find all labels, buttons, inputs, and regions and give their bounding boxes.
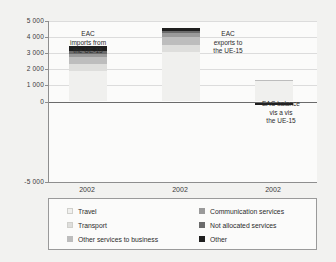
legend-item[interactable]: Not allocated services: [199, 218, 284, 232]
y-axis-tick-label: 4 000: [0, 33, 44, 40]
y-axis-tick-mark: [45, 37, 48, 38]
legend-swatch-icon: [67, 236, 73, 242]
legend-label: Transport: [78, 222, 107, 229]
annotation-line: exports to: [192, 39, 264, 48]
annotation-line: EAC balance: [244, 100, 318, 109]
legend-label: Not allocated services: [210, 222, 277, 229]
y-axis-tick-label: -5 000: [0, 178, 44, 185]
annotation-line: EAC: [52, 30, 124, 39]
annotation-line: the UE-15: [52, 47, 124, 56]
bar-stack[interactable]: [255, 80, 293, 102]
chart-root: 5 0004 0003 0002 0001 0000-5 000 2002200…: [0, 0, 336, 262]
x-axis-line: [48, 182, 317, 183]
bar-segment[interactable]: [162, 52, 200, 102]
bar-segment[interactable]: [69, 64, 107, 71]
annot-exports: EACexports tothe UE-15: [192, 30, 264, 56]
annotation-line: vis a vis: [244, 109, 318, 118]
y-axis-tick-mark: [45, 21, 48, 22]
y-axis-tick-mark: [45, 182, 48, 183]
legend-swatch-icon: [199, 236, 205, 242]
legend-label: Communication services: [210, 208, 284, 215]
legend-swatch-icon: [199, 222, 205, 228]
legend-item[interactable]: Other services to business: [67, 232, 158, 246]
legend-column-right: Communication servicesNot allocated serv…: [199, 204, 284, 246]
legend-column-left: TravelTransportOther services to busines…: [67, 204, 158, 246]
annot-imports: EACimports fromthe UE-15: [52, 30, 124, 56]
y-axis-tick-mark: [45, 53, 48, 54]
legend-item[interactable]: Communication services: [199, 204, 284, 218]
x-axis-label: 2002: [57, 186, 117, 193]
legend-swatch-icon: [67, 208, 73, 214]
legend-label: Travel: [78, 208, 97, 215]
y-axis-tick-label: 2 000: [0, 65, 44, 72]
annotation-line: the UE-15: [244, 117, 318, 126]
annotation-line: imports from: [52, 39, 124, 48]
y-axis-tick-label: 0: [0, 98, 44, 105]
legend-item[interactable]: Other: [199, 232, 284, 246]
annotation-line: the UE-15: [192, 47, 264, 56]
legend-label: Other services to business: [78, 236, 158, 243]
bar-segment[interactable]: [69, 71, 107, 101]
y-axis-tick-mark: [45, 102, 48, 103]
legend-box: TravelTransportOther services to busines…: [48, 198, 317, 250]
legend-item[interactable]: Travel: [67, 204, 158, 218]
legend-swatch-icon: [199, 208, 205, 214]
legend-label: Other: [210, 236, 227, 243]
y-axis-tick-label: 1 000: [0, 81, 44, 88]
x-axis-label: 2002: [243, 186, 303, 193]
bar-segment[interactable]: [69, 57, 107, 64]
grid-line: [49, 21, 317, 22]
x-axis-label: 2002: [150, 186, 210, 193]
y-axis-tick-label: 5 000: [0, 17, 44, 24]
annot-balance: EAC balancevis a visthe UE-15: [244, 100, 318, 126]
legend-item[interactable]: Transport: [67, 218, 158, 232]
y-axis-tick-mark: [45, 69, 48, 70]
y-axis-tick-mark: [45, 85, 48, 86]
y-axis-tick-label: 3 000: [0, 49, 44, 56]
annotation-line: EAC: [192, 30, 264, 39]
legend-swatch-icon: [67, 222, 73, 228]
bar-segment[interactable]: [255, 81, 293, 102]
